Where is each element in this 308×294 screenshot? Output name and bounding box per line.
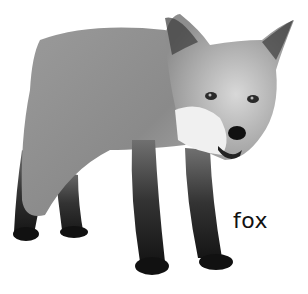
front-right-leg bbox=[185, 148, 222, 258]
fox-illustration bbox=[0, 0, 308, 294]
front-right-paw bbox=[199, 254, 233, 270]
front-left-paw bbox=[135, 257, 169, 275]
nose bbox=[228, 126, 246, 140]
back-left-paw bbox=[13, 227, 39, 241]
fox-caption: fox bbox=[233, 208, 268, 233]
back-right-paw bbox=[60, 226, 88, 238]
front-left-leg bbox=[132, 140, 165, 262]
fox-image-card: fox bbox=[0, 0, 308, 294]
